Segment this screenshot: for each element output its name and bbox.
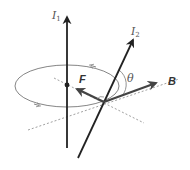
loop-direction-arrow-bottom: [34, 104, 39, 106]
label-i1: I1: [52, 10, 61, 23]
theta-arc: [119, 70, 126, 96]
label-field: B: [168, 76, 176, 87]
wire-i2: [78, 40, 133, 158]
label-theta: θ: [127, 73, 134, 84]
label-force: F: [79, 74, 86, 85]
wire-i1-point: [65, 83, 70, 88]
label-i2: I2: [131, 26, 140, 39]
loop-direction-arrow-top: [91, 66, 96, 68]
vector-f: [77, 89, 104, 102]
diagram-canvas: I1 I2 θ F B: [0, 0, 190, 170]
